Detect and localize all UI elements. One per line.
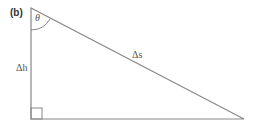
triangle: [31, 8, 244, 119]
hypotenuse-label: Δs: [132, 50, 142, 60]
panel-label: (b): [10, 8, 23, 18]
angle-arc: [31, 19, 50, 30]
angle-theta-label: θ: [35, 13, 40, 23]
vertical-side-label: Δh: [16, 63, 27, 73]
right-angle-marker: [31, 108, 42, 119]
